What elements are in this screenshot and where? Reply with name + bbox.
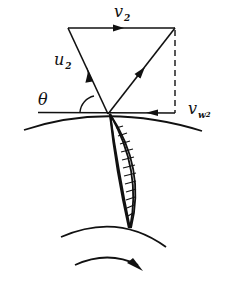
rotation-arrow-icon <box>75 258 143 272</box>
label-u2: u2 <box>54 52 72 68</box>
velocity-triangle-diagram <box>0 0 238 282</box>
absolute-velocity-v2 <box>68 25 175 32</box>
relative-velocity <box>108 28 175 114</box>
angle-theta-arc <box>80 96 94 112</box>
label-theta: θ <box>38 92 48 108</box>
blade-velocity-u2 <box>68 28 108 114</box>
curved-blade <box>110 114 136 228</box>
inner-rim-arc <box>61 227 166 247</box>
label-vw2: vw2 <box>188 101 211 117</box>
label-v2: v2 <box>114 4 130 20</box>
whirl-component-vw2-arrowhead <box>146 110 158 117</box>
